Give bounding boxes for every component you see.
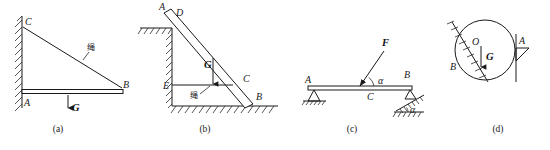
panel-b-label-A: A [158,1,166,12]
panel-c-ground-hatching [393,112,421,117]
panel-b-label-E: E [162,80,169,91]
panel-c-beam-member [308,86,412,90]
panel-b-caption: (b) [199,124,210,135]
panel-c-label-A: A [304,74,312,85]
panel-a-label-B: B [123,79,129,90]
panel-a-wall-hatching [15,16,22,111]
panel-b-rope-leader [200,86,210,94]
panel-a-rope-leader [83,52,89,60]
panel-a: C A B 绳 G (a) [15,16,129,135]
panel-a-wall [15,16,22,111]
panel-a-label-A: A [23,97,31,108]
panel-b-label-G: G [204,59,212,70]
panel-c-label-F: F [381,37,389,48]
panel-b-upper-ledge [138,28,172,34]
panel-a-label-rope: 绳 [87,42,95,52]
panel-a-caption: (a) [53,124,64,135]
panel-a-rod-member [22,90,123,94]
panel-b-label-D: D [175,7,184,18]
panel-b-label-B: B [256,91,262,102]
figure-canvas: C A B 绳 G (a) [0,0,550,150]
panel-b-label-rope: 绳 [190,90,198,100]
panel-c-caption: (c) [347,124,358,135]
panel-b: A D C B E 绳 G (b) [138,1,278,135]
panel-d-label-A: A [518,35,526,46]
panel-d-label-O: O [472,36,479,47]
panel-a-label-C: C [25,16,32,27]
panel-b-floor [171,106,278,113]
panel-c-label-B: B [404,69,410,80]
panel-c-support-A [302,90,326,105]
panel-b-floor-hatching [171,106,274,113]
panel-d: O G B A (d) [447,20,529,135]
panel-c-support-A-hatching [302,101,325,105]
panel-d-label-B: B [450,61,456,72]
panel-d-caption: (d) [492,124,503,135]
panel-c: A B C F α α (c) [302,37,424,135]
panel-c-support-B [393,90,424,117]
panel-a-rope-member [23,27,122,88]
panel-c-label-C: C [367,91,374,102]
physics-figure-sheet: C A B 绳 G (a) [0,0,550,150]
panel-b-vertical-wall [166,28,172,108]
panel-b-label-C: C [243,73,250,84]
panel-c-label-alpha-force: α [378,75,384,86]
panel-d-incline-wall [447,21,488,82]
panel-d-label-G: G [486,51,494,62]
panel-a-label-G: G [72,102,80,113]
panel-c-label-alpha-incline: α [410,104,416,115]
panel-b-vertical-wall-hatching [166,34,172,108]
panel-b-upper-ledge-hatching [138,28,172,34]
